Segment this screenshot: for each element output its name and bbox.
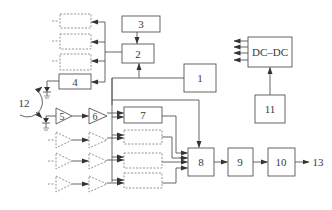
label-10: 10 — [276, 156, 288, 168]
block-diagram: 3 2 4 1 5 6 7 8 9 10 11 DC–DC 12 13 — [0, 0, 332, 210]
photodiode-bottom-icon — [42, 118, 50, 130]
dashed-block-a — [60, 14, 91, 28]
dashed-block-c — [60, 54, 91, 70]
label-11: 11 — [265, 103, 276, 115]
dashed-block-f — [124, 173, 162, 188]
label-6: 6 — [93, 111, 98, 122]
label-3: 3 — [138, 18, 144, 30]
label-8: 8 — [198, 156, 204, 168]
dashed-block-b — [60, 34, 91, 49]
label-7: 7 — [140, 109, 146, 121]
label-4: 4 — [72, 76, 78, 88]
label-12: 12 — [19, 97, 30, 109]
label-2: 2 — [135, 48, 141, 60]
label-5: 5 — [60, 111, 65, 122]
label-9: 9 — [237, 156, 243, 168]
photodiode-top-icon — [43, 87, 51, 98]
dashed-block-e — [124, 153, 162, 168]
label-1: 1 — [197, 72, 203, 84]
label-13: 13 — [313, 156, 325, 168]
dashed-block-d — [124, 130, 162, 144]
label-dc-dc: DC–DC — [252, 46, 288, 58]
